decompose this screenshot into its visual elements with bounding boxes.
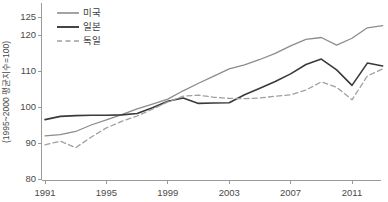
x-tick-label: 2007: [280, 187, 301, 198]
chart-legend: 미국일본독일: [57, 7, 101, 46]
legend-label-germany: 독일: [83, 35, 101, 46]
y-tick-label: 100: [20, 101, 36, 112]
line-chart: 8090100110120125 19911995199920032007201…: [0, 0, 388, 202]
x-tick-label: 1995: [96, 187, 117, 198]
y-axis-ticks: 8090100110120125: [20, 11, 41, 184]
x-tick-label: 1991: [34, 187, 55, 198]
y-tick-label: 120: [20, 29, 36, 40]
y-tick-label: 110: [21, 65, 36, 76]
y-tick-label: 125: [20, 11, 36, 22]
x-tick-label: 2011: [342, 187, 362, 198]
x-tick-label: 1999: [157, 187, 178, 198]
chart-canvas: 8090100110120125 19911995199920032007201…: [0, 0, 388, 202]
x-tick-label: 2003: [219, 187, 240, 198]
y-axis-title: (1995~2000 평균지수=100): [1, 41, 11, 143]
series-line-germany: [45, 69, 383, 148]
series-line-japan: [45, 59, 383, 119]
legend-label-japan: 일본: [83, 21, 101, 32]
y-tick-label: 90: [25, 137, 36, 148]
x-axis-ticks: 199119951999200320072011: [34, 181, 362, 199]
y-tick-label: 80: [25, 173, 36, 184]
legend-label-usa: 미국: [83, 7, 101, 18]
